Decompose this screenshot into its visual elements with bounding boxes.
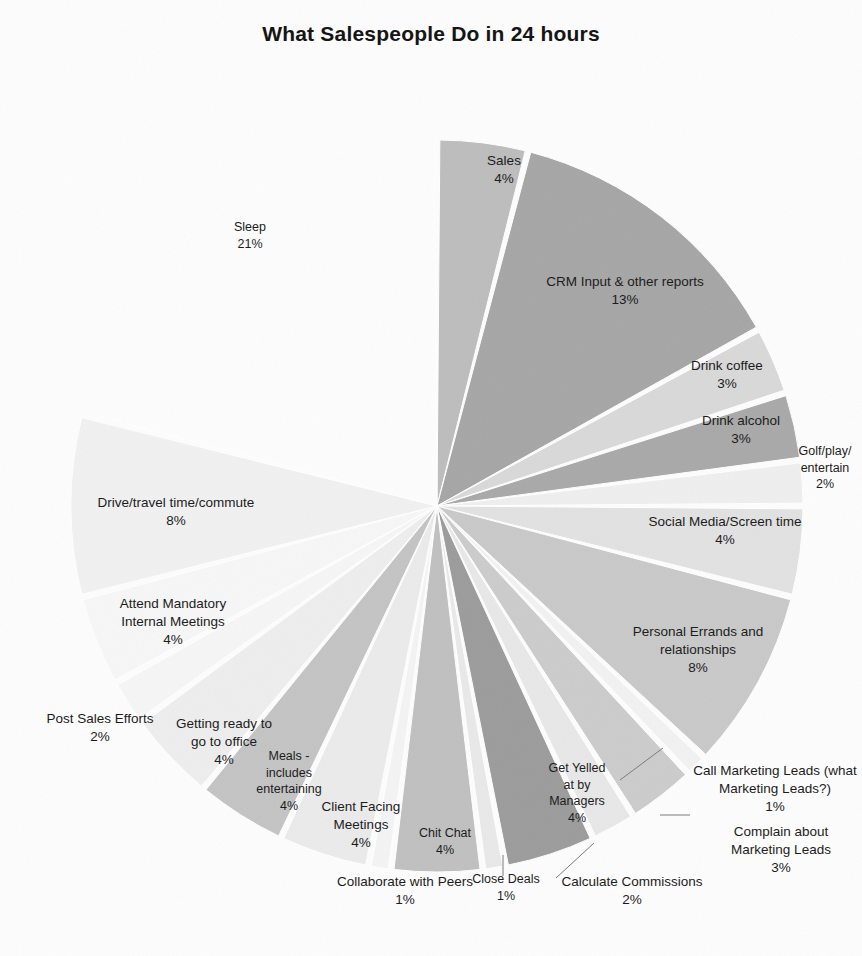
- pie-chart-canvas: [0, 0, 862, 956]
- paper-grain-overlay: [0, 0, 862, 956]
- pie-chart-figure: What Salespeople Do in 24 hours Sales4%C…: [0, 0, 862, 956]
